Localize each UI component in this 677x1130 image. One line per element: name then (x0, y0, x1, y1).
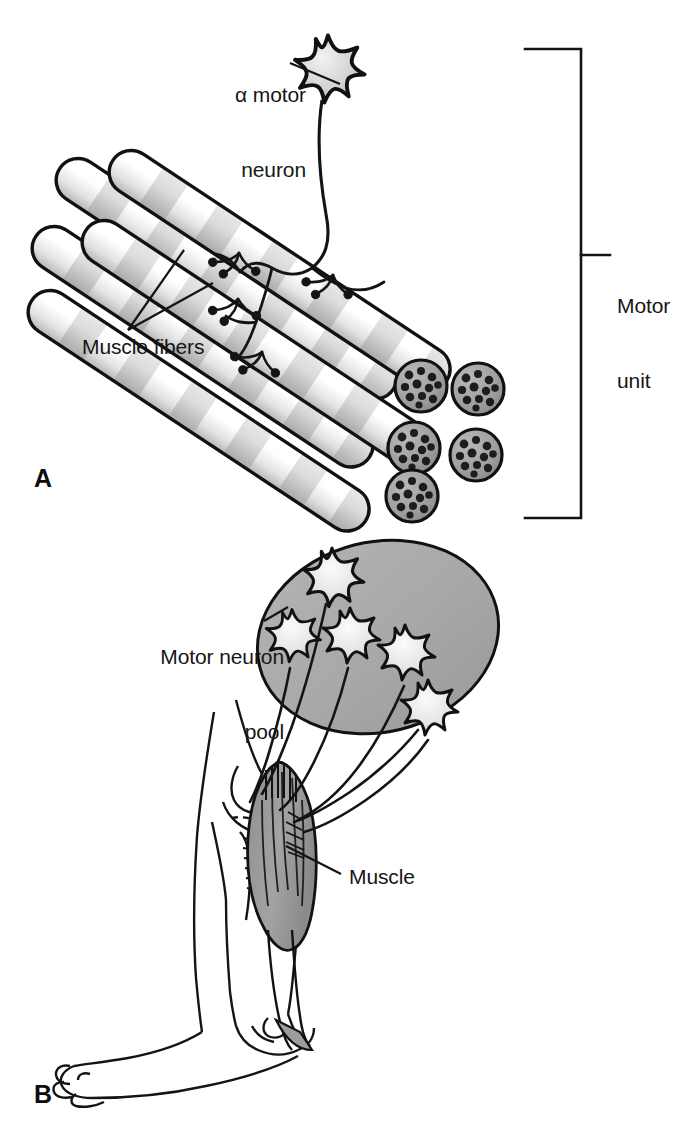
label-muscle: Muscle (349, 864, 415, 889)
highlighted-muscle (248, 762, 317, 1050)
panel-label-a: A (34, 464, 52, 493)
figure-svg (0, 0, 677, 1130)
panel-a-group (20, 35, 610, 539)
label-motor-neuron-pool-line1: Motor neuron (84, 644, 284, 669)
motor-unit-bracket (525, 49, 610, 518)
figure-root: α motor neuron Muscle fibers Motor unit … (0, 0, 677, 1130)
label-motor-neuron-pool-line2: pool (84, 719, 284, 744)
label-alpha-motor-neuron-line2: neuron (196, 157, 306, 182)
axon (312, 100, 328, 268)
label-motor-unit-line2: unit (617, 368, 670, 393)
fiber-cross-section (450, 429, 502, 481)
label-muscle-fibers: Muscle fibers (82, 334, 204, 359)
label-alpha-motor-neuron-line1: α motor (196, 82, 306, 107)
label-motor-neuron-pool: Motor neuron pool (84, 594, 284, 794)
label-motor-unit: Motor unit (617, 243, 670, 443)
panel-label-b: B (34, 1080, 52, 1109)
fiber-cross-section (452, 363, 504, 415)
fiber-cross-section (395, 360, 447, 412)
fiber-cross-section (388, 422, 440, 474)
fiber-cross-section (386, 470, 438, 522)
label-alpha-motor-neuron: α motor neuron (196, 32, 306, 232)
label-motor-unit-line1: Motor (617, 293, 670, 318)
